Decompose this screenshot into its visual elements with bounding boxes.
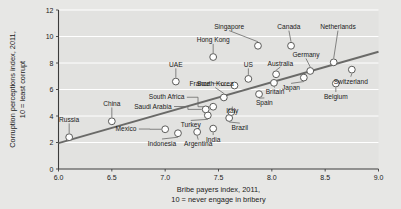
data-point-label: Spain <box>256 99 273 107</box>
x-tick-label: 7.0 <box>160 174 170 181</box>
data-point-marker[interactable] <box>271 79 278 86</box>
y-tick-label: 12 <box>46 7 54 14</box>
data-point-label: Mexico <box>115 125 136 132</box>
data-point-marker[interactable] <box>108 118 115 125</box>
data-point-marker[interactable] <box>66 134 73 141</box>
x-tick-label: 6.0 <box>54 174 64 181</box>
x-axis-title-line2: 10 = never engage in bribery <box>171 195 266 204</box>
data-point-label: India <box>206 136 221 143</box>
data-point-marker[interactable] <box>210 125 217 132</box>
x-tick-label: 7.5 <box>214 174 224 181</box>
data-point-marker[interactable] <box>255 42 262 49</box>
y-axis-title-line1: Corruption perceptions index, 2011, <box>8 31 17 148</box>
data-point-label: France <box>189 80 210 87</box>
data-point-marker[interactable] <box>256 91 263 98</box>
data-point-label: Germany <box>292 51 320 59</box>
data-point-marker[interactable] <box>288 42 295 49</box>
x-tick-label: 9.0 <box>374 174 384 181</box>
data-point-label: Singapore <box>214 23 244 31</box>
data-point-label: Indonesia <box>148 140 177 147</box>
y-tick-label: 4 <box>50 113 54 120</box>
data-point-marker[interactable] <box>202 106 209 113</box>
x-tick-label: 8.5 <box>320 174 330 181</box>
data-point-label: Japan <box>282 84 300 92</box>
scatter-chart: 024681012 6.06.57.07.58.08.59.0 RussiaCh… <box>0 0 401 209</box>
data-point-marker[interactable] <box>273 71 280 78</box>
data-point-marker[interactable] <box>348 66 355 73</box>
data-point-marker[interactable] <box>210 103 217 110</box>
data-point-marker[interactable] <box>210 54 217 61</box>
data-point-marker[interactable] <box>330 59 337 66</box>
y-tick-label: 0 <box>50 166 54 173</box>
data-point-label: Netherlands <box>320 23 356 30</box>
data-point-label: Hong Kong <box>197 36 230 44</box>
data-point-label: US <box>244 61 254 68</box>
data-point-label: Canada <box>277 23 300 30</box>
data-point-label: UAE <box>169 61 183 68</box>
y-tick-label: 8 <box>50 60 54 67</box>
data-point-label: Australia <box>268 60 294 67</box>
y-tick-label: 2 <box>50 139 54 146</box>
data-point-label: China <box>103 100 121 107</box>
data-point-label: Switzerland <box>334 78 368 85</box>
data-point-marker[interactable] <box>194 129 201 136</box>
data-point-label: Belgium <box>324 93 348 101</box>
data-point-label: Russia <box>59 116 79 123</box>
x-tick-label: 6.5 <box>107 174 117 181</box>
y-tick-label: 6 <box>50 86 54 93</box>
data-point-label: Turkey <box>181 121 202 129</box>
data-point-label: Brazil <box>232 124 249 131</box>
data-point-marker[interactable] <box>307 68 314 75</box>
y-tick-label: 10 <box>46 33 54 40</box>
x-tick-label: 8.0 <box>267 174 277 181</box>
x-axis-title-line1: Bribe payers index, 2011, <box>177 185 260 194</box>
data-point-marker[interactable] <box>220 94 227 101</box>
data-point-label: South Africa <box>149 93 185 100</box>
y-axis-title-line2: 10 = least corrupt <box>18 61 27 118</box>
data-point-label: Saudi Arabia <box>134 103 172 110</box>
data-point-marker[interactable] <box>175 130 182 137</box>
data-point-label: Italy <box>226 107 239 115</box>
data-point-marker[interactable] <box>245 76 252 83</box>
data-point-marker[interactable] <box>162 126 169 133</box>
data-point-marker[interactable] <box>172 78 179 85</box>
data-point-marker[interactable] <box>300 74 307 81</box>
chart-svg: 024681012 6.06.57.07.58.08.59.0 RussiaCh… <box>0 0 401 209</box>
